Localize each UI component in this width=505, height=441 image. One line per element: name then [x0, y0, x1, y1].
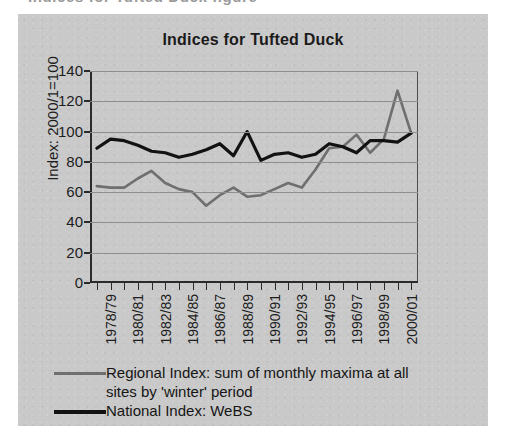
gridline	[90, 192, 418, 193]
x-tick-label: 1996/97	[349, 294, 365, 345]
x-tick-label: 1984/85	[185, 294, 201, 345]
legend-label-national: National Index: WeBS	[106, 401, 474, 420]
x-tick-mark	[111, 283, 112, 290]
x-tick-mark	[384, 283, 385, 290]
x-tick-mark	[247, 283, 248, 290]
series-lines	[90, 71, 418, 283]
y-tick-label: 140	[39, 62, 83, 79]
y-tick-label: 20	[39, 244, 83, 261]
x-tick-mark	[261, 283, 262, 290]
legend-label-regional: Regional Index: sum of monthly maxima at…	[106, 363, 474, 382]
x-tick-mark	[165, 283, 166, 290]
plot-area	[90, 71, 418, 283]
series-line-national-index	[97, 132, 411, 161]
x-tick-label: 1990/91	[267, 294, 283, 345]
y-axis-label: Index: 2000/1=100	[44, 29, 61, 209]
x-tick-mark	[357, 283, 358, 290]
scanned-page: Indices for Tufted Duck figure Indices f…	[0, 0, 505, 441]
x-tick-mark	[275, 283, 276, 290]
gridline	[90, 253, 418, 254]
y-axis-line	[90, 71, 92, 283]
x-tick-mark	[97, 283, 98, 290]
gridline	[90, 71, 418, 72]
x-tick-mark	[398, 283, 399, 290]
x-tick-label: 1980/81	[130, 294, 146, 345]
x-tick-label: 1978/79	[103, 294, 119, 345]
cropped-header-text: Indices for Tufted Duck figure	[28, 0, 257, 5]
x-tick-label: 1988/89	[240, 294, 256, 345]
gridline	[90, 132, 418, 133]
x-tick-mark	[220, 283, 221, 290]
x-tick-label: 1982/83	[158, 294, 174, 345]
legend-item-regional: Regional Index: sum of monthly maxima at…	[54, 363, 474, 382]
x-tick-mark	[411, 283, 412, 290]
x-tick-mark	[316, 283, 317, 290]
x-tick-mark	[234, 283, 235, 290]
y-tick-label: 100	[39, 123, 83, 140]
x-tick-mark	[124, 283, 125, 290]
x-tick-mark	[302, 283, 303, 290]
chart-title: Indices for Tufted Duck	[18, 31, 488, 49]
y-tick-label: 120	[39, 92, 83, 109]
plot-right-border	[417, 71, 418, 283]
y-tick-label: 0	[39, 274, 83, 291]
legend-label-regional-cont: sites by 'winter' period	[106, 382, 474, 401]
gridline	[90, 101, 418, 102]
x-tick-label: 1986/87	[212, 294, 228, 345]
x-tick-mark	[138, 283, 139, 290]
chart-figure-panel: Indices for Tufted Duck Index: 2000/1=10…	[18, 14, 488, 426]
x-tick-mark	[329, 283, 330, 290]
x-tick-label: 1992/93	[294, 294, 310, 345]
gridline	[90, 222, 418, 223]
chart-legend: Regional Index: sum of monthly maxima at…	[54, 363, 474, 420]
legend-swatch-regional-icon	[54, 363, 106, 382]
y-tick-label: 60	[39, 183, 83, 200]
x-tick-mark	[370, 283, 371, 290]
y-tick-label: 40	[39, 213, 83, 230]
legend-item-national: National Index: WeBS	[54, 401, 474, 420]
cropped-page-header: Indices for Tufted Duck figure	[0, 0, 505, 14]
x-tick-mark	[179, 283, 180, 290]
x-tick-label: 1994/95	[322, 294, 338, 345]
x-tick-label: 2000/01	[404, 294, 420, 345]
legend-swatch-national-icon	[54, 401, 106, 420]
x-tick-mark	[288, 283, 289, 290]
x-tick-mark	[193, 283, 194, 290]
y-tick-label: 80	[39, 153, 83, 170]
x-axis-line	[90, 281, 418, 283]
x-tick-mark	[152, 283, 153, 290]
x-tick-mark	[343, 283, 344, 290]
x-tick-label: 1998/99	[376, 294, 392, 345]
gridline	[90, 162, 418, 163]
x-tick-mark	[206, 283, 207, 290]
